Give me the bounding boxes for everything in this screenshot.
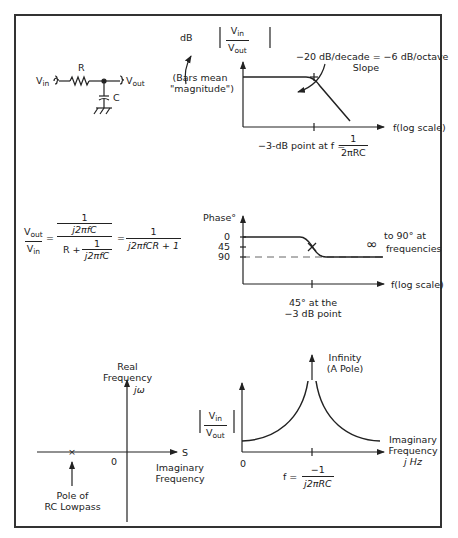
- phase-note-line2: frequencies: [386, 243, 441, 254]
- lhs-fraction: Vout Vin: [22, 226, 45, 257]
- mid-numerator: 1 j2πfC: [57, 212, 112, 235]
- phase-ylabel: Phase°: [203, 212, 236, 223]
- phase-tick-90: 90: [218, 251, 230, 262]
- pole-frequency-prefix: f =: [283, 471, 297, 482]
- magnitude-ratio: Vin Vout: [226, 25, 249, 56]
- equals-1: =: [46, 232, 54, 243]
- s-label: S: [182, 447, 188, 458]
- bars-note: (Bars mean "magnitude"): [170, 72, 230, 94]
- mid-denominator-fraction: 1 j2πfC: [82, 238, 112, 261]
- magnitude-curve: [243, 77, 350, 121]
- capacitor-label: C: [113, 92, 120, 103]
- pole-curve-left: [242, 381, 308, 441]
- s-plane-origin: 0: [111, 456, 117, 467]
- phase-curve: [243, 237, 383, 257]
- magnitude-xlabel: f(log scale): [393, 122, 446, 133]
- corner-fraction: 1 2πRC: [339, 133, 368, 158]
- phase-xlabel: f(log scale): [391, 279, 444, 290]
- corner-text: −3-dB point at f =: [258, 140, 345, 151]
- pole-plot-ratio: Vin Vout: [204, 410, 227, 441]
- pole-caption: Pole of RC Lowpass: [40, 490, 105, 512]
- db-label: dB: [180, 32, 193, 43]
- real-frequency-label: Real Frequency: [100, 361, 155, 383]
- rhs-fraction: 1 j2πfCR + 1: [126, 226, 181, 251]
- phase-plot-axes: [240, 216, 384, 288]
- vout-label: Vout: [126, 75, 145, 89]
- equals-2: =: [117, 232, 125, 243]
- junction-dot: [102, 79, 106, 83]
- jw-label: jω: [134, 384, 145, 395]
- pole-curve-right: [316, 381, 380, 441]
- imaginary-frequency-label: Imaginary Frequency: [150, 462, 210, 484]
- resistor-label: R: [78, 62, 85, 73]
- pole-plot-origin: 0: [240, 458, 246, 469]
- vin-label: Vin: [36, 75, 49, 89]
- pole-marker: ×: [68, 446, 76, 457]
- pole-frequency-fraction: −1 j2πRC: [302, 464, 334, 489]
- infinity-label: Infinity (A Pole): [320, 352, 370, 374]
- resistor-symbol: [70, 77, 89, 85]
- phase-caption: 45° at the −3 dB point: [278, 297, 348, 319]
- slope-note: −20 dB/decade = −6 dB/octave Slope: [296, 51, 436, 73]
- main-fraction-bar: [57, 236, 112, 237]
- infinity-symbol: ∞: [366, 239, 378, 250]
- mid-denominator-prefix: R +: [63, 244, 81, 255]
- phase-note-line1: to 90° at: [384, 230, 426, 241]
- pole-plot-xlabel: Imaginary Frequency j Hz: [383, 434, 443, 467]
